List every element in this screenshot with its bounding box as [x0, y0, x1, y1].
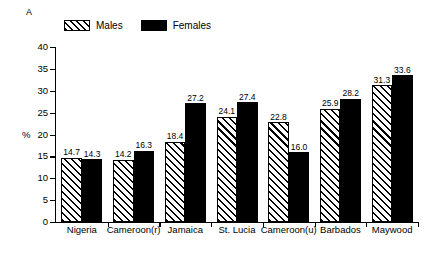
bar-males: 22.8	[268, 122, 289, 222]
bar-males: 31.3	[372, 85, 393, 222]
bar-females: 16.3	[134, 151, 155, 222]
y-axis-tick-label: 40	[37, 42, 48, 52]
bar-group: 14.714.3	[61, 47, 102, 222]
y-axis-tick	[50, 135, 55, 136]
bar-group: 24.127.4	[217, 47, 258, 222]
bar-males: 14.2	[113, 160, 134, 222]
bar-group: 18.427.2	[165, 47, 206, 222]
bar-value-label: 14.7	[63, 148, 80, 157]
y-axis-tick	[50, 156, 55, 157]
bar-females: 27.2	[185, 103, 206, 222]
x-axis-line	[55, 222, 418, 223]
x-axis-category-label: Barbados	[320, 224, 361, 235]
bar-males: 25.9	[320, 109, 341, 222]
x-axis-tick	[211, 222, 212, 227]
x-axis-category-label: Nigeria	[67, 224, 97, 235]
plot-area: 0510152025303540% 14.714.314.216.318.427…	[56, 47, 418, 222]
y-axis-tick-label: 35	[37, 64, 48, 74]
legend-swatch-males-icon	[64, 20, 90, 31]
bar-females: 16.0	[289, 152, 310, 222]
y-axis-title: %	[22, 130, 30, 140]
y-axis-tick-label: 15	[37, 152, 48, 162]
bar-group: 14.216.3	[113, 47, 154, 222]
bar-males: 24.1	[217, 117, 238, 222]
y-axis-tick-label: 20	[37, 130, 48, 140]
bar-value-label: 28.2	[342, 89, 359, 98]
bar-series-container: 14.714.314.216.318.427.224.127.422.816.0…	[56, 47, 418, 222]
bar-value-label: 22.8	[270, 113, 287, 122]
y-axis-tick	[50, 47, 55, 48]
y-axis-tick	[50, 113, 55, 114]
legend-entry-females: Females	[141, 20, 211, 31]
bar-value-label: 27.2	[187, 94, 204, 103]
x-axis-category-label: Cameroon(u)	[261, 224, 317, 235]
figure-panel-a: A Males Females 0510152025303540% 14.714…	[0, 0, 433, 264]
bar-males: 14.7	[61, 158, 82, 222]
bar-value-label: 31.3	[374, 76, 391, 85]
bar-females: 14.3	[82, 159, 103, 222]
bar-group: 25.928.2	[320, 47, 361, 222]
bar-group: 31.333.6	[372, 47, 413, 222]
bar-value-label: 14.2	[115, 150, 132, 159]
x-axis-tick	[366, 222, 367, 227]
bar-value-label: 14.3	[84, 150, 101, 159]
bar-females: 27.4	[237, 102, 258, 222]
bar-value-label: 24.1	[218, 107, 235, 116]
legend-label-females: Females	[173, 20, 211, 31]
x-axis-category-label: Jamaica	[168, 224, 203, 235]
bar-males: 18.4	[165, 142, 186, 223]
y-axis-tick	[50, 222, 55, 223]
y-axis-tick-label: 25	[37, 108, 48, 118]
y-axis-tick-label: 10	[37, 174, 48, 184]
y-axis-tick	[50, 200, 55, 201]
bar-value-label: 33.6	[394, 66, 411, 75]
bar-value-label: 18.4	[167, 132, 184, 141]
y-axis-tick	[50, 178, 55, 179]
bar-value-label: 16.0	[291, 143, 308, 152]
y-axis-tick	[50, 91, 55, 92]
bar-value-label: 16.3	[136, 141, 153, 150]
y-axis-tick-label: 0	[43, 217, 48, 227]
bar-value-label: 27.4	[239, 93, 256, 102]
x-axis-category-label: Maywood	[372, 224, 413, 235]
y-axis-tick-label: 30	[37, 86, 48, 96]
bar-females: 28.2	[340, 99, 361, 222]
bar-group: 22.816.0	[268, 47, 309, 222]
y-axis-tick	[50, 69, 55, 70]
x-axis-category-label: Cameroon(r)	[107, 224, 161, 235]
bar-value-label: 25.9	[322, 99, 339, 108]
chart-legend: Males Females	[64, 20, 211, 31]
y-axis-tick-label: 5	[43, 195, 48, 205]
bar-females: 33.6	[392, 75, 413, 222]
legend-swatch-females-icon	[141, 20, 167, 31]
panel-label: A	[26, 7, 32, 18]
legend-entry-males: Males	[64, 20, 123, 31]
x-axis-category-label: St. Lucia	[219, 224, 256, 235]
x-axis-tick	[418, 222, 419, 227]
legend-label-males: Males	[96, 20, 123, 31]
